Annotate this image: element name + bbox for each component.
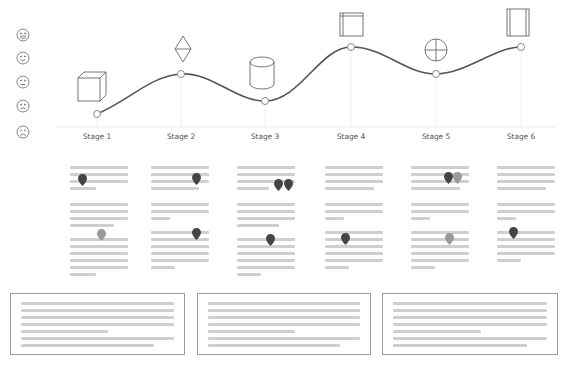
text-placeholder-line <box>411 217 430 220</box>
stage-5-node[interactable] <box>433 71 440 78</box>
stage-6-label: Stage 6 <box>491 132 551 141</box>
text-placeholder-line <box>411 266 435 269</box>
text-placeholder-line <box>497 238 555 241</box>
stage-guides <box>97 47 521 127</box>
text-placeholder-line <box>411 203 469 206</box>
text-placeholder-line <box>237 210 295 213</box>
text-placeholder-line <box>325 180 383 183</box>
text-placeholder-line <box>497 259 521 262</box>
text-placeholder-line <box>237 224 279 227</box>
text-placeholder-line <box>393 316 547 319</box>
text-placeholder-line <box>70 187 96 190</box>
text-placeholder-line <box>393 323 547 326</box>
sentiment-curve <box>97 47 521 114</box>
text-placeholder-line <box>208 344 340 347</box>
map-pin-icon[interactable] <box>192 173 201 185</box>
text-placeholder-line <box>393 302 547 305</box>
text-placeholder-line <box>325 252 383 255</box>
summary-box-2 <box>197 293 371 355</box>
text-placeholder-line <box>497 173 555 176</box>
text-placeholder-line <box>325 238 383 241</box>
stage-3-node[interactable] <box>262 98 269 105</box>
text-placeholder-line <box>237 217 295 220</box>
text-placeholder-line <box>497 252 555 255</box>
summary-box-3 <box>382 293 558 355</box>
text-placeholder-line <box>411 238 469 241</box>
text-placeholder-line <box>21 344 154 347</box>
text-placeholder-line <box>70 259 128 262</box>
text-placeholder-line <box>237 203 295 206</box>
text-placeholder-line <box>151 217 170 220</box>
text-placeholder-line <box>325 217 344 220</box>
text-placeholder-line <box>151 166 209 169</box>
text-placeholder-line <box>151 187 199 190</box>
map-pin-icon[interactable] <box>274 179 283 191</box>
map-pin-icon[interactable] <box>192 228 201 240</box>
text-placeholder-line <box>497 180 555 183</box>
text-placeholder-line <box>325 266 349 269</box>
map-pin-icon[interactable] <box>266 234 275 246</box>
text-placeholder-line <box>237 166 295 169</box>
text-placeholder-line <box>325 166 383 169</box>
map-pin-icon[interactable] <box>97 229 106 241</box>
stage-4-node[interactable] <box>348 44 355 51</box>
map-pin-icon[interactable] <box>509 227 518 239</box>
text-placeholder-line <box>325 173 383 176</box>
map-pin-icon[interactable] <box>341 233 350 245</box>
map-pin-icon[interactable] <box>78 174 87 186</box>
text-placeholder-line <box>21 323 174 326</box>
map-pin-icon[interactable] <box>284 179 293 191</box>
text-placeholder-line <box>325 210 383 213</box>
text-placeholder-line <box>70 252 128 255</box>
summary-box-1 <box>10 293 185 355</box>
text-placeholder-line <box>70 203 128 206</box>
stage-2-label: Stage 2 <box>151 132 211 141</box>
text-placeholder-line <box>325 259 383 262</box>
text-placeholder-line <box>393 330 481 333</box>
text-placeholder-line <box>325 203 383 206</box>
text-placeholder-line <box>393 309 547 312</box>
diamond-icon <box>175 36 191 62</box>
text-placeholder-line <box>151 259 209 262</box>
text-placeholder-line <box>411 245 469 248</box>
stage-6-node[interactable] <box>518 44 525 51</box>
text-placeholder-line <box>151 245 209 248</box>
text-placeholder-line <box>151 203 209 206</box>
text-placeholder-line <box>208 316 360 319</box>
map-pin-icon[interactable] <box>445 233 454 245</box>
text-placeholder-line <box>151 210 209 213</box>
text-placeholder-line <box>21 337 174 340</box>
text-placeholder-line <box>151 252 209 255</box>
text-placeholder-line <box>70 245 128 248</box>
text-placeholder-line <box>70 210 128 213</box>
text-placeholder-line <box>497 210 555 213</box>
text-placeholder-line <box>393 344 527 347</box>
text-placeholder-line <box>208 302 360 305</box>
stage-1-node[interactable] <box>94 111 101 118</box>
text-placeholder-line <box>325 245 383 248</box>
map-pin-icon[interactable] <box>444 172 453 184</box>
text-placeholder-line <box>497 245 555 248</box>
text-placeholder-line <box>497 187 546 190</box>
text-placeholder-line <box>70 224 114 227</box>
text-placeholder-line <box>208 330 295 333</box>
text-placeholder-line <box>325 231 383 234</box>
text-placeholder-line <box>237 259 295 262</box>
text-placeholder-line <box>237 187 269 190</box>
text-placeholder-line <box>21 330 108 333</box>
text-placeholder-line <box>411 210 469 213</box>
stage-2-node[interactable] <box>178 71 185 78</box>
text-placeholder-line <box>497 166 555 169</box>
panel-icon <box>507 9 529 36</box>
stage-5-label: Stage 5 <box>406 132 466 141</box>
text-placeholder-line <box>411 231 469 234</box>
neutral-face-icon <box>17 76 29 88</box>
text-placeholder-line <box>208 309 360 312</box>
map-pin-icon[interactable] <box>453 172 462 184</box>
text-placeholder-line <box>411 259 469 262</box>
text-placeholder-line <box>21 309 174 312</box>
text-placeholder-line <box>411 252 469 255</box>
text-placeholder-line <box>497 217 516 220</box>
text-placeholder-line <box>497 231 555 234</box>
happy-face-icon <box>17 52 29 64</box>
